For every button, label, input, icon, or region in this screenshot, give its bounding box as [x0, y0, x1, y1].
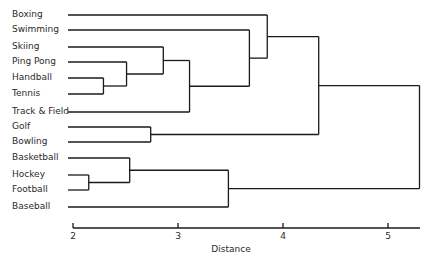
leaf-label: Tennis	[12, 88, 40, 98]
leaf-label: Football	[12, 184, 48, 194]
leaf-label: Golf	[12, 121, 30, 131]
x-axis-title: Distance	[211, 244, 250, 254]
leaf-label: Hockey	[12, 169, 45, 179]
x-tick-label: 4	[280, 231, 286, 241]
x-tick-label: 2	[70, 231, 76, 241]
leaf-label: Baseball	[12, 201, 50, 211]
leaf-label: Track & Field	[12, 106, 69, 116]
leaf-label: Basketball	[12, 152, 59, 162]
leaf-label: Swimming	[12, 24, 59, 34]
leaf-label: Boxing	[12, 9, 43, 19]
leaf-label: Handball	[12, 72, 52, 82]
leaf-label: Ping Pong	[12, 56, 56, 66]
x-tick-label: 5	[385, 231, 391, 241]
leaf-label: Skiing	[12, 41, 39, 51]
dendrogram-chart	[0, 0, 432, 265]
leaf-label: Bowling	[12, 136, 47, 146]
x-tick-label: 3	[175, 231, 181, 241]
